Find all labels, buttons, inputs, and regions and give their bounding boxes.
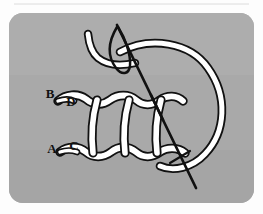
label-point-d: D xyxy=(66,94,75,109)
label-point-a: A xyxy=(47,141,57,156)
label-point-b: B xyxy=(46,86,55,101)
stitch-diagram-figure: B D A C xyxy=(0,0,263,214)
label-point-c: C xyxy=(69,138,78,153)
stitch-diagram-canvas: B D A C xyxy=(0,0,263,214)
card-shade-band-lower xyxy=(9,150,254,203)
